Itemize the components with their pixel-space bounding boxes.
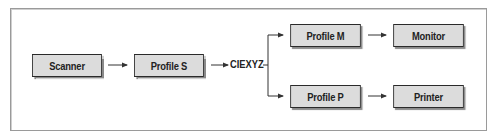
node-monitor: Monitor	[393, 24, 464, 47]
node-profile-s: Profile S	[134, 54, 204, 77]
node-profile-p: Profile P	[290, 85, 361, 108]
node-printer: Printer	[393, 85, 464, 108]
node-profile-m: Profile M	[290, 24, 361, 47]
node-scanner: Scanner	[32, 54, 102, 77]
node-ciexyz: CIEXYZ	[230, 58, 264, 70]
